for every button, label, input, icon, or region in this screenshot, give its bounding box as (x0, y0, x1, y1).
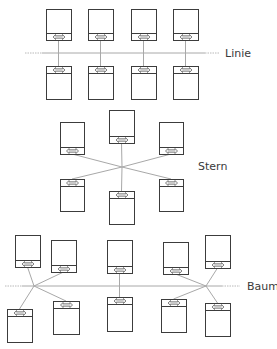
node-body (108, 298, 133, 332)
network-topology-diagram: Linie Stern Baum (0, 0, 277, 349)
baum-branch-line (34, 272, 64, 286)
stern-spoke-line (122, 154, 171, 167)
baum-branch-line (206, 268, 218, 286)
baum-branch-line (20, 286, 35, 309)
computer-node (47, 67, 72, 100)
stern-spoke-line (72, 154, 122, 167)
computer-node (162, 300, 187, 333)
computer-node (61, 123, 85, 155)
baum-branch-line (174, 286, 207, 299)
computer-node (89, 10, 114, 41)
baum-branch-line (28, 267, 35, 286)
computer-node (206, 304, 231, 337)
computer-node (110, 192, 135, 225)
computer-node (16, 236, 41, 268)
computer-node (160, 180, 184, 212)
label-stern: Stern (198, 160, 227, 173)
computer-node (174, 10, 199, 41)
baum-branch-line (206, 286, 218, 303)
computer-node (8, 310, 33, 343)
computer-node (61, 180, 85, 212)
computer-node (52, 241, 77, 273)
label-linie: Linie (225, 47, 251, 60)
computer-node (108, 298, 133, 332)
stern-spoke-line (122, 143, 123, 167)
label-baum: Baum (247, 280, 277, 293)
computer-node (160, 123, 184, 155)
computer-node (54, 302, 80, 335)
stern-spoke-line (122, 167, 171, 179)
baum-branch-line (176, 274, 207, 286)
computer-node (47, 10, 72, 41)
computer-node (132, 67, 157, 100)
computer-node (132, 10, 157, 41)
stern-spoke-line (72, 167, 122, 179)
computer-node (108, 241, 133, 274)
computer-node (89, 67, 114, 100)
baum-branch-line (34, 286, 66, 301)
computer-node (164, 243, 189, 275)
computer-node (174, 67, 199, 100)
computer-node (206, 236, 231, 269)
stern-spoke-line (122, 167, 123, 191)
computer-node (110, 111, 135, 144)
